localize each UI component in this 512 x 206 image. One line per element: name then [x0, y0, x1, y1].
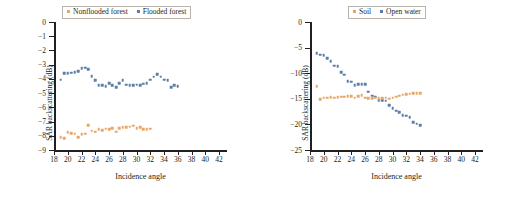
- x-tick: 32: [406, 150, 407, 155]
- data-point: [333, 96, 336, 99]
- data-point: [111, 84, 114, 87]
- data-point: [360, 83, 363, 86]
- y-tick-label: 0: [42, 19, 46, 27]
- legend-label: Flooded forest: [143, 8, 187, 16]
- data-point: [91, 130, 94, 133]
- data-point: [329, 96, 332, 99]
- data-point: [402, 93, 405, 96]
- legend-item[interactable]: Nonflooded forest: [67, 8, 128, 16]
- data-point: [118, 127, 121, 130]
- data-point: [398, 111, 401, 114]
- y-tick: −3: [49, 65, 54, 66]
- y-tick-label: −9: [38, 147, 46, 155]
- x-axis-title-left: Incidence angle: [54, 172, 227, 181]
- data-point: [319, 98, 322, 101]
- data-point: [360, 94, 363, 97]
- data-point: [60, 78, 63, 81]
- data-point: [125, 126, 128, 129]
- data-point: [374, 96, 377, 99]
- x-tick-label: 24: [348, 156, 356, 164]
- data-point: [149, 127, 152, 130]
- data-point: [87, 124, 90, 127]
- data-point: [108, 128, 111, 131]
- x-tick-label: 42: [215, 156, 223, 164]
- x-tick-label: 26: [361, 156, 369, 164]
- x-tick: 18: [54, 150, 55, 155]
- y-tick: 0: [305, 22, 310, 23]
- data-point: [60, 136, 63, 139]
- data-point: [63, 72, 66, 75]
- x-tick-label: 30: [133, 156, 141, 164]
- data-point: [139, 84, 142, 87]
- legend-item[interactable]: Open water: [380, 8, 421, 16]
- x-tick: 24: [95, 150, 96, 155]
- data-point: [101, 129, 104, 132]
- y-tick-label: 0: [298, 19, 302, 27]
- data-point: [66, 131, 69, 134]
- data-point: [419, 124, 422, 127]
- data-point: [101, 84, 104, 87]
- y-tick: −10: [305, 73, 310, 74]
- data-point: [395, 95, 398, 98]
- y-tick: −5: [305, 48, 310, 49]
- data-point: [139, 126, 142, 129]
- x-tick: 34: [420, 150, 421, 155]
- x-tick-label: 26: [105, 156, 113, 164]
- x-tick: 38: [192, 150, 193, 155]
- x-tick: 34: [164, 150, 165, 155]
- x-tick-label: 18: [306, 156, 314, 164]
- y-tick-label: −5: [294, 44, 302, 52]
- data-point: [381, 97, 384, 100]
- y-tick-label: −4: [38, 76, 46, 84]
- data-point: [378, 99, 381, 102]
- x-axis-spine-right: [310, 150, 483, 152]
- x-tick: 28: [123, 150, 124, 155]
- data-point: [146, 82, 149, 85]
- data-point: [350, 81, 353, 84]
- x-tick: 32: [150, 150, 151, 155]
- x-axis-spine-left: [54, 150, 227, 152]
- x-tick: 42: [219, 150, 220, 155]
- data-point: [391, 107, 394, 110]
- data-point: [367, 90, 370, 93]
- legend-marker-icon: [137, 10, 140, 13]
- data-point: [319, 53, 322, 56]
- data-point: [73, 71, 76, 74]
- legend-item[interactable]: Soil: [353, 8, 371, 16]
- data-point: [367, 97, 370, 100]
- data-point: [350, 95, 353, 98]
- data-point: [104, 85, 107, 88]
- data-point: [91, 75, 94, 78]
- data-point: [336, 96, 339, 99]
- x-tick-label: 34: [416, 156, 424, 164]
- data-point: [343, 73, 346, 76]
- data-point: [353, 84, 356, 87]
- data-point: [364, 83, 367, 86]
- y-tick: −15: [305, 99, 310, 100]
- data-point: [97, 128, 100, 131]
- x-tick-label: 38: [444, 156, 452, 164]
- x-tick: 36: [434, 150, 435, 155]
- x-tick-label: 36: [174, 156, 182, 164]
- y-tick-label: −5: [38, 90, 46, 98]
- x-tick: 20: [68, 150, 69, 155]
- x-tick: 18: [310, 150, 311, 155]
- legend-item[interactable]: Flooded forest: [137, 8, 187, 16]
- data-point: [322, 96, 325, 99]
- data-point: [412, 92, 415, 95]
- data-point: [340, 95, 343, 98]
- data-point: [353, 96, 356, 99]
- x-tick-label: 20: [320, 156, 328, 164]
- x-tick-label: 20: [64, 156, 72, 164]
- legend-marker-icon: [353, 10, 356, 13]
- x-tick: 38: [448, 150, 449, 155]
- x-tick: 22: [338, 150, 339, 155]
- x-tick: 42: [475, 150, 476, 155]
- data-point: [402, 114, 405, 117]
- data-point: [146, 128, 149, 131]
- data-point: [115, 86, 118, 89]
- y-tick-label: −15: [290, 96, 302, 104]
- legend-label: Soil: [359, 8, 371, 16]
- data-point: [163, 78, 166, 81]
- data-point: [388, 104, 391, 107]
